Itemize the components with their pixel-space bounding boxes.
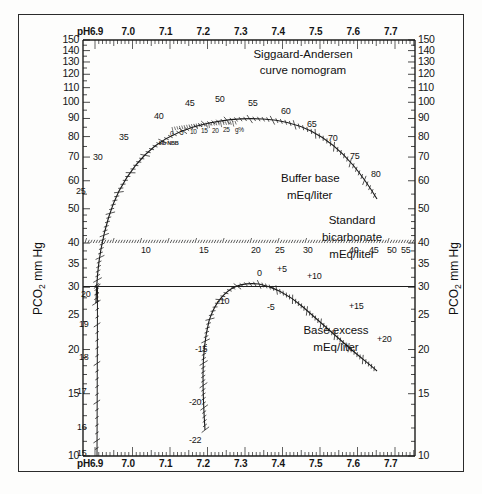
pco2-tick-right-25: 25 (418, 309, 429, 320)
ph-tick-bottom-7.6: 7.6 (347, 459, 360, 469)
ph-tick-bottom-7.7: 7.7 (384, 459, 397, 469)
pco2-tick-right-100: 100 (418, 96, 435, 107)
pco2-tick-left-150: 150 (59, 34, 79, 45)
nomogram-page: Siggaard-Andersen curve nomogram Buffer … (0, 0, 482, 494)
ph-tick-bottom-7.4: 7.4 (272, 459, 285, 469)
std-bicarbonate-annotation-line2: bicarbonate (297, 232, 407, 244)
pco2-tick-right-150: 150 (418, 34, 435, 45)
ph-tick-bottom-7.2: 7.2 (197, 459, 210, 469)
nomogram-plot (19, 15, 465, 473)
hb-unit-label: g% (235, 127, 244, 134)
std-bicarb-label-15: 15 (199, 246, 208, 255)
pco2-tick-right-15: 15 (418, 388, 429, 399)
pco2-tick-right-10: 10 (418, 450, 429, 461)
base-excess-annotation-line2: mEq/liter (281, 342, 391, 354)
figure-title-line2: curve nomogram (223, 65, 383, 77)
pco2-tick-right-90: 90 (418, 112, 429, 123)
figure-frame: Siggaard-Andersen curve nomogram Buffer … (18, 14, 464, 472)
pco2-tick-left-130: 130 (59, 56, 79, 67)
ph-prefix-bottom: pH6.9 (77, 459, 103, 469)
pco2-tick-right-130: 130 (418, 56, 435, 67)
pco2-tick-left-120: 120 (59, 68, 79, 79)
std-bicarb-label-30: 30 (303, 246, 312, 255)
std-bicarb-label-40: 40 (349, 246, 358, 255)
buffer-base-tail-label-16: 16 (77, 423, 86, 432)
ph-tick-top-7.4: 7.4 (272, 27, 285, 37)
buffer-base-tail-label-20: 20 (81, 290, 90, 299)
buffer-base-label-80: 80 (371, 170, 380, 179)
pco2-tick-right-140: 140 (418, 45, 435, 56)
buffer-base-label-25: 25 (76, 187, 85, 196)
ph-tick-top-7.5: 7.5 (309, 27, 322, 37)
ph-tick-top-7.2: 7.2 (197, 27, 210, 37)
pco2-tick-left-20: 20 (65, 344, 79, 355)
pco2-tick-left-100: 100 (59, 96, 79, 107)
base-excess-label-minus15: -15 (195, 345, 207, 354)
base-excess-label-0: 0 (257, 269, 262, 278)
pco2-tick-right-120: 120 (418, 68, 435, 79)
std-bicarbonate-annotation-line1: Standard (297, 215, 407, 227)
pco2-tick-left-140: 140 (59, 45, 79, 56)
buffer-base-label-40: 40 (154, 112, 163, 121)
pco2-tick-right-50: 50 (418, 203, 429, 214)
pco2-tick-left-30: 30 (65, 281, 79, 292)
hb-nbb-label: Hb NBB (159, 141, 179, 147)
y-axis-left-sub: 2 (37, 284, 47, 289)
buffer-base-tail-label-19: 19 (79, 320, 88, 329)
pco2-tick-left-110: 110 (59, 82, 79, 93)
ph-tick-top-7.6: 7.6 (347, 27, 360, 37)
base-excess-annotation-line1: Base excess (281, 325, 391, 337)
hb-tick-label-20: 20 (212, 128, 218, 135)
std-bicarb-label-55: 55 (401, 246, 410, 255)
base-excess-label-plus20: +20 (377, 335, 391, 344)
ph-tick-top-7.1: 7.1 (159, 27, 172, 37)
std-bicarb-label-25: 25 (275, 246, 284, 255)
bottom-axis-ticks (95, 447, 414, 456)
pco2-tick-left-50: 50 (65, 203, 79, 214)
buffer-base-tail-label-17: 17 (77, 387, 86, 396)
std-bicarb-label-50: 50 (387, 246, 396, 255)
hb-tick-label-15: 15 (201, 128, 207, 135)
pco2-tick-left-25: 25 (65, 309, 79, 320)
y-axis-right-unit: mm Hg (447, 242, 461, 284)
ph-tick-bottom-7.1: 7.1 (159, 459, 172, 469)
y-axis-label-left: PCO2 mm Hg (31, 242, 47, 315)
pco2-tick-left-80: 80 (65, 131, 79, 142)
y-axis-label-right: PCO2 mm Hg (447, 242, 463, 315)
y-axis-right-sub: 2 (453, 284, 463, 289)
y-axis-left-pco: PCO (31, 289, 45, 315)
buffer-base-label-50: 50 (215, 95, 224, 104)
buffer-base-annotation-line2: mEq/liter (287, 190, 397, 202)
pco2-tick-left-90: 90 (65, 112, 79, 123)
base-excess-label-minus10: -10 (217, 297, 229, 306)
buffer-base-label-30: 30 (93, 153, 102, 162)
buffer-base-label-45: 45 (185, 99, 194, 108)
pco2-tick-right-30: 30 (418, 281, 429, 292)
buffer-base-label-70: 70 (328, 134, 337, 143)
base-excess-label-minus5: -5 (267, 303, 274, 312)
buffer-base-label-55: 55 (248, 99, 257, 108)
base-excess-label-plus5: +5 (277, 265, 287, 274)
y-axis-left-unit: mm Hg (31, 242, 45, 284)
base-excess-label-minus22: -22 (189, 436, 201, 445)
base-excess-label-plus10: +10 (307, 272, 321, 281)
buffer-base-tail (93, 284, 100, 456)
pco2-tick-left-60: 60 (65, 175, 79, 186)
buffer-base-tail-label-15: 15 (77, 449, 86, 458)
ph-tick-top-7.3: 7.3 (234, 27, 247, 37)
pco2-tick-left-40: 40 (65, 237, 79, 248)
ph-tick-bottom-7.3: 7.3 (234, 459, 247, 469)
buffer-base-label-60: 60 (281, 107, 290, 116)
hb-tick-label-25: 25 (223, 127, 229, 134)
buffer-base-tail-label-18: 18 (79, 353, 88, 362)
ph-prefix-top: pH6.9 (77, 27, 103, 37)
pco2-tick-right-80: 80 (418, 131, 429, 142)
base-excess-label-plus15: +15 (349, 302, 363, 311)
buffer-base-label-35: 35 (119, 133, 128, 142)
base-excess-curve (200, 282, 259, 433)
pco2-tick-left-70: 70 (65, 151, 79, 162)
ph-tick-top-7.0: 7.0 (122, 27, 135, 37)
buffer-base-label-65: 65 (307, 120, 316, 129)
hb-tick-label-10: 10 (190, 129, 196, 136)
hb-tick-label-0: 0 (170, 131, 173, 138)
